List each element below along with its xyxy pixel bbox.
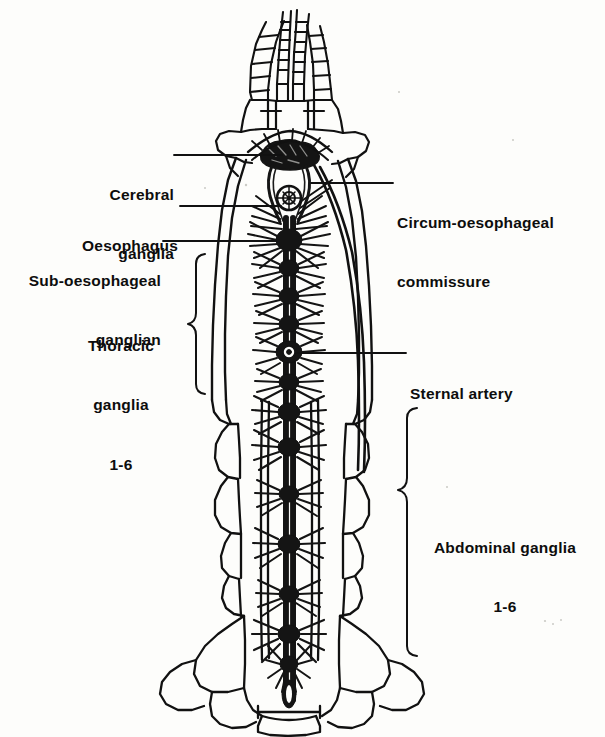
brace-abdominal	[398, 408, 417, 656]
figure-root: Cerebral ganglia Oesophagus Sub-oesophag…	[0, 0, 605, 737]
label-abdominal-ganglia-line1: Abdominal ganglia	[419, 538, 591, 558]
label-sternal-artery: Sternal artery	[410, 344, 580, 443]
label-abdominal-ganglia: Abdominal ganglia 1-6	[419, 498, 591, 657]
label-thoracic-ganglia-line2: ganglia	[58, 395, 184, 415]
label-sternal-artery-line1: Sternal artery	[410, 384, 580, 404]
label-circum-commissure-line2: commissure	[397, 272, 597, 292]
cerebral-ganglia-mass	[248, 129, 332, 170]
label-circum-commissure-line1: Circum-oesophageal	[397, 213, 597, 233]
label-sub-oesophageal-line1: Sub-oesophageal	[8, 271, 161, 291]
label-abdominal-ganglia-line2: 1-6	[419, 597, 591, 617]
label-thoracic-ganglia-line3: 1-6	[58, 455, 184, 475]
label-circum-oesophageal-commissure: Circum-oesophageal commissure	[397, 173, 597, 332]
antennae-group	[250, 10, 332, 101]
head-plates	[241, 100, 343, 133]
label-thoracic-ganglia: Thoracic ganglia 1-6	[58, 296, 184, 514]
brace-thoracic	[188, 254, 205, 394]
label-thoracic-ganglia-line1: Thoracic	[58, 336, 184, 356]
